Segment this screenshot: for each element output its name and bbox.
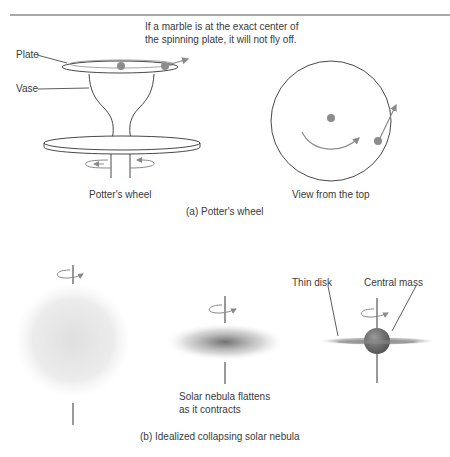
- label-potters-wheel: Potter's wheel: [89, 189, 152, 201]
- caption-part-a: (a) Potter's wheel: [186, 206, 264, 217]
- vase: [89, 74, 154, 142]
- wheel-top: [44, 136, 200, 150]
- thin-disk-front: [337, 340, 417, 344]
- nebula-flattening-rotation-arrow: [209, 305, 236, 313]
- label-central-mass: Central mass: [364, 277, 423, 289]
- wheel-rotation-arrow: [86, 160, 155, 168]
- label-thin-disk: Thin disk: [292, 277, 332, 289]
- top-view-fly-arrow: [380, 105, 396, 138]
- top-view-marble-center: [327, 114, 335, 122]
- label-view-from-top: View from the top: [292, 189, 370, 201]
- label-vase: Vase: [16, 83, 38, 95]
- plate-leader: [37, 55, 67, 63]
- central-mass-leader: [392, 286, 416, 331]
- annotation-line-2: the spinning plate, it will not fly off.: [145, 34, 297, 46]
- marble-fly-arrow: [168, 59, 188, 65]
- thin-disk-leader: [328, 286, 338, 336]
- potters-wheel-side-view: [44, 60, 200, 178]
- nebula-flattening: [167, 324, 283, 360]
- top-view-marble-edge: [374, 137, 382, 145]
- annotation-line-1: If a marble is at the exact center of: [145, 21, 298, 33]
- label-plate: Plate: [16, 49, 39, 61]
- label-flattens-line-2: as it contracts: [179, 404, 241, 416]
- top-view-rotation-arrow: [302, 132, 359, 149]
- label-flattens-line-1: Solar nebula flattens: [179, 391, 270, 403]
- marble-edge: [161, 62, 169, 70]
- disk-rotation-arrow: [361, 309, 388, 317]
- nebula-sphere: [15, 282, 131, 398]
- vase-leader: [38, 88, 89, 89]
- diagram-canvas: [0, 0, 450, 457]
- marble-center: [117, 62, 125, 70]
- nebula-sphere-rotation-arrow: [57, 270, 83, 278]
- caption-part-b: (b) Idealized collapsing solar nebula: [140, 431, 300, 442]
